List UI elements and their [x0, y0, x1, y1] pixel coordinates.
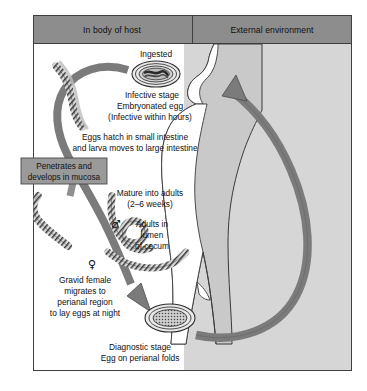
label-penetrates-2: develops in mucosa [28, 173, 101, 182]
label-adults-3: of cecum [135, 241, 169, 251]
label-embryonated-egg: Embryonated egg [117, 101, 183, 111]
diagnostic-egg-illustration [145, 304, 195, 332]
male-symbol: ♂ [111, 218, 121, 231]
header-left-label: In body of host [83, 25, 141, 35]
label-eggs-hatch-1: Eggs hatch in small intestine [82, 132, 188, 142]
life-cycle-figure: In body of host External environment [0, 0, 367, 391]
label-mature-2: (2–6 weeks) [127, 199, 173, 209]
label-adults-1: Adults in [136, 219, 168, 229]
label-infective-stage: Infective stage [125, 90, 179, 100]
label-diagnostic-2: Egg on perianal folds [101, 353, 180, 363]
label-gravid-1: Gravid female [59, 275, 111, 285]
label-gravid-2: migrates to [64, 286, 106, 296]
diagram-canvas: In body of host External environment [0, 0, 367, 391]
header-right-label: External environment [230, 25, 314, 35]
label-diagnostic-1: Diagnostic stage [109, 342, 171, 352]
label-gravid-3: perianal region [57, 297, 113, 307]
label-mature-1: Mature into adults [117, 188, 184, 198]
female-symbol: ♀ [88, 258, 96, 271]
label-eggs-hatch-2: and larva moves to large intestine [72, 143, 198, 153]
label-adults-2: lumen [141, 230, 164, 240]
embryonated-egg-illustration [132, 61, 180, 87]
mucosa-label-box: Penetrates and develops in mucosa [21, 158, 107, 184]
label-infective-hours: (Infective within hours) [108, 112, 192, 122]
label-ingested: Ingested [140, 49, 172, 59]
label-gravid-4: to lay eggs at night [50, 308, 121, 318]
label-penetrates-1: Penetrates and [36, 162, 92, 171]
